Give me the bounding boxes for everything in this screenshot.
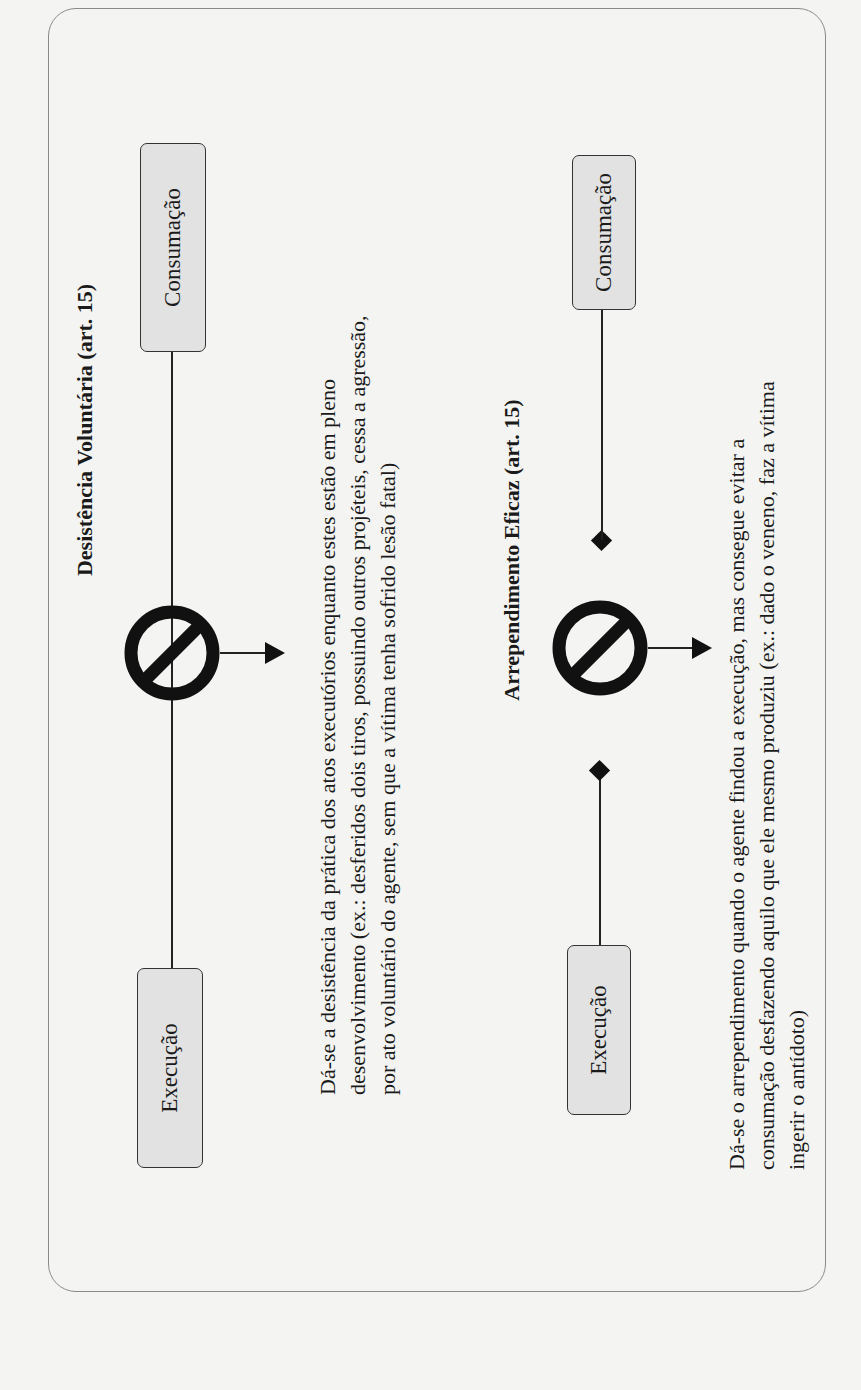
description-line: Dá-se a desistência da prática dos atos … xyxy=(313,315,343,1095)
execucao-box-desistencia: Execução xyxy=(137,968,203,1168)
rotated-diagram-canvas: Desistência Voluntária (art. 15) Execuçã… xyxy=(0,0,861,1390)
timeline-segment-end xyxy=(601,310,603,540)
description-arrependimento: Dá-se o arrependimento quando o agente f… xyxy=(722,381,812,1170)
description-line: ingerir o antídoto) xyxy=(782,381,812,1170)
consumacao-box-arrependimento: Consumação xyxy=(572,155,636,310)
execucao-label: Execução xyxy=(157,1023,183,1112)
description-line: consumação desfazendo aquilo que ele mes… xyxy=(752,381,782,1170)
prohibited-icon xyxy=(550,598,650,698)
diagram-title-desistencia: Desistência Voluntária (art. 15) xyxy=(72,284,98,576)
execucao-label: Execução xyxy=(586,985,612,1074)
execucao-box-arrependimento: Execução xyxy=(567,945,631,1115)
arrow-shaft-desistencia xyxy=(220,653,268,655)
consumacao-label: Consumação xyxy=(591,173,617,292)
description-line: desenvolvimento (ex.: desferidos dois ti… xyxy=(343,315,373,1095)
prohibited-icon xyxy=(122,603,222,703)
arrow-down-icon xyxy=(692,637,712,659)
arrow-shaft-arrependimento xyxy=(648,648,696,650)
consumacao-box-desistencia: Consumação xyxy=(140,143,206,352)
description-desistencia: Dá-se a desistência da prática dos atos … xyxy=(313,315,403,1095)
consumacao-label: Consumação xyxy=(160,188,186,307)
description-line: por ato voluntário do agente, sem que a … xyxy=(373,315,403,1095)
page: Desistência Voluntária (art. 15) Execuçã… xyxy=(0,0,861,1390)
description-line: Dá-se o arrependimento quando o agente f… xyxy=(722,381,752,1170)
arrow-down-icon xyxy=(265,642,285,664)
diagram-title-arrependimento: Arrependimento Eficaz (art. 15) xyxy=(499,399,525,700)
timeline-segment-start xyxy=(599,770,601,945)
